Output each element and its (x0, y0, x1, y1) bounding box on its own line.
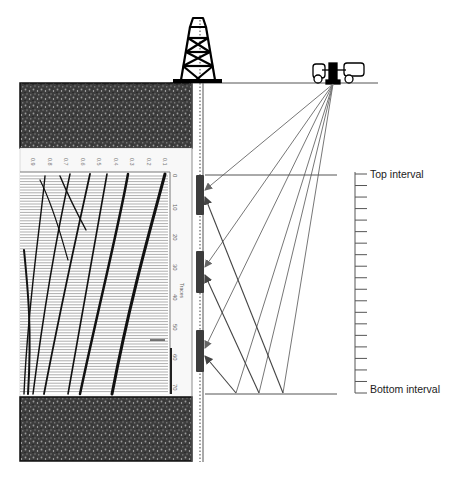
svg-text:0.6: 0.6 (80, 158, 86, 166)
svg-text:0.2: 0.2 (146, 158, 152, 166)
svg-text:20: 20 (172, 234, 178, 241)
vsp-diagram: 010203040506070 0.90.80.70.60.50.40.30.2… (0, 0, 459, 484)
svg-text:10: 10 (172, 204, 178, 211)
depth-scale (355, 172, 367, 393)
bottom-rock-layer (20, 397, 192, 461)
borehole (192, 20, 203, 462)
axis-label-traces: Traces (179, 283, 185, 299)
drilling-rig-icon (173, 18, 222, 83)
top-rock-layer (20, 83, 192, 148)
receiver-tool-icon (196, 175, 204, 372)
svg-text:0.1: 0.1 (162, 158, 168, 166)
svg-text:0.7: 0.7 (63, 158, 69, 166)
bottom-interval-label: Bottom interval (370, 383, 440, 395)
reflected-rays (205, 197, 283, 393)
svg-text:30: 30 (172, 264, 178, 271)
svg-text:0.9: 0.9 (30, 158, 36, 166)
svg-text:0.8: 0.8 (47, 158, 53, 166)
svg-text:40: 40 (172, 294, 178, 301)
top-interval-label: Top interval (370, 168, 424, 180)
seismic-section: 010203040506070 0.90.80.70.60.50.40.30.2… (20, 148, 192, 397)
svg-text:0.3: 0.3 (129, 158, 135, 166)
ray-paths (205, 84, 333, 393)
vibroseis-truck-icon (313, 63, 364, 84)
svg-text:0.4: 0.4 (113, 158, 119, 166)
svg-text:60: 60 (172, 354, 178, 361)
svg-text:50: 50 (172, 324, 178, 331)
svg-text:70: 70 (172, 384, 178, 391)
svg-text:0.5: 0.5 (96, 158, 102, 166)
